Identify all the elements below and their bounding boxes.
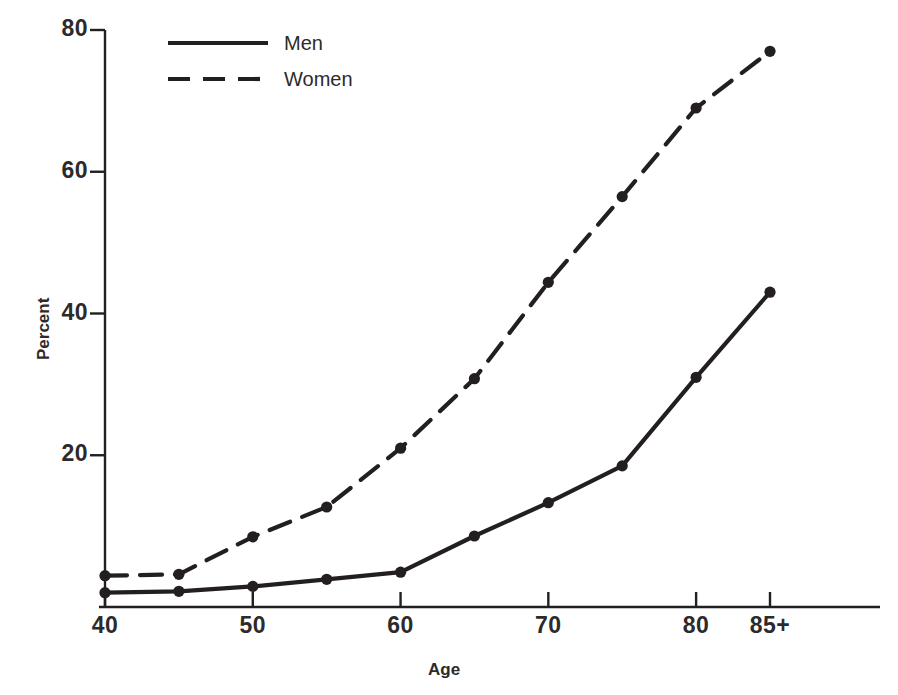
y-axis-title: Percent xyxy=(34,298,54,360)
x-tick-label-60: 60 xyxy=(356,612,446,639)
data-point-men-65 xyxy=(469,530,480,541)
data-point-women-65 xyxy=(469,373,480,384)
data-point-women-50 xyxy=(247,531,258,542)
data-point-men-50 xyxy=(247,581,258,592)
x-tick-label-50: 50 xyxy=(208,612,298,639)
data-point-women-40 xyxy=(99,570,110,581)
legend-sample-lines xyxy=(168,43,268,79)
data-point-women-55 xyxy=(321,501,332,512)
x-tick-label-70: 70 xyxy=(503,612,593,639)
data-point-men-70 xyxy=(543,497,554,508)
data-point-women-70 xyxy=(543,277,554,288)
series-line-men xyxy=(105,292,770,593)
y-tick-label-60: 60 xyxy=(30,157,88,184)
y-tick-label-80: 80 xyxy=(30,15,88,42)
line-chart: 80 60 40 20 40 50 60 70 80 85+ Percent A… xyxy=(0,0,898,695)
series-layer xyxy=(99,46,775,599)
legend-label-women: Women xyxy=(284,68,353,91)
series-line-women xyxy=(105,51,770,575)
legend-label-men: Men xyxy=(284,32,323,55)
data-point-women-85+ xyxy=(764,46,775,57)
plot-area xyxy=(0,0,898,695)
data-point-men-85+ xyxy=(764,287,775,298)
data-point-women-75 xyxy=(617,191,628,202)
data-point-men-60 xyxy=(395,567,406,578)
data-point-men-45 xyxy=(173,586,184,597)
data-point-women-80 xyxy=(691,102,702,113)
axis-layer xyxy=(90,30,880,607)
x-axis-title: Age xyxy=(428,660,460,680)
x-tick-label-85plus: 85+ xyxy=(725,612,815,639)
data-point-men-40 xyxy=(99,587,110,598)
data-point-men-55 xyxy=(321,574,332,585)
data-point-men-75 xyxy=(617,460,628,471)
data-point-men-80 xyxy=(691,372,702,383)
data-point-women-45 xyxy=(173,569,184,580)
x-tick-label-40: 40 xyxy=(60,612,150,639)
y-tick-label-20: 20 xyxy=(30,440,88,467)
data-point-women-60 xyxy=(395,443,406,454)
